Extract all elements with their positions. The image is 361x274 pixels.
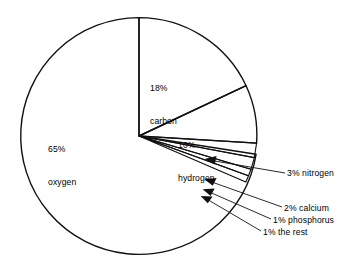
- callout-label-phosphorus: 1% phosphorus: [273, 215, 334, 226]
- slice-label-oxygen-percent: 65%: [48, 144, 76, 155]
- callout-label-calcium: 2% calcium: [284, 203, 329, 214]
- callout-label-nitrogen: 3% nitrogen: [287, 168, 334, 179]
- slice-label-oxygen: 65% oxygen: [48, 122, 76, 210]
- slice-label-carbon: 18% carbon: [150, 61, 177, 149]
- slice-label-hydrogen-name: hydrogen: [178, 173, 215, 184]
- slice-label-hydrogen-percent: 10%: [178, 140, 215, 151]
- leader-line-calcium: [209, 181, 282, 207]
- slice-label-hydrogen: 10% hydrogen: [178, 118, 215, 206]
- slice-label-carbon-name: carbon: [150, 116, 177, 127]
- pie-chart: 18% carbon 10% hydrogen 65% oxygen 3% ni…: [0, 0, 361, 274]
- slice-label-carbon-percent: 18%: [150, 83, 177, 94]
- callout-label-rest: 1% the rest: [263, 227, 308, 238]
- slice-label-oxygen-name: oxygen: [48, 177, 76, 188]
